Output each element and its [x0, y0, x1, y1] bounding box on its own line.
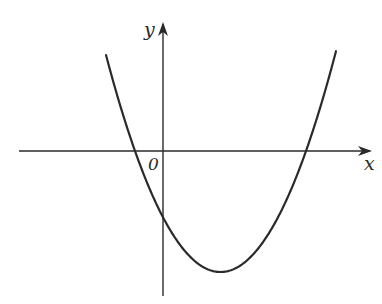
x-axis-label: x	[364, 152, 375, 174]
parabola-figure: y x 0	[0, 0, 382, 304]
y-axis-label: y	[143, 18, 155, 40]
parabola-curve	[106, 51, 336, 272]
origin-label: 0	[148, 154, 159, 174]
